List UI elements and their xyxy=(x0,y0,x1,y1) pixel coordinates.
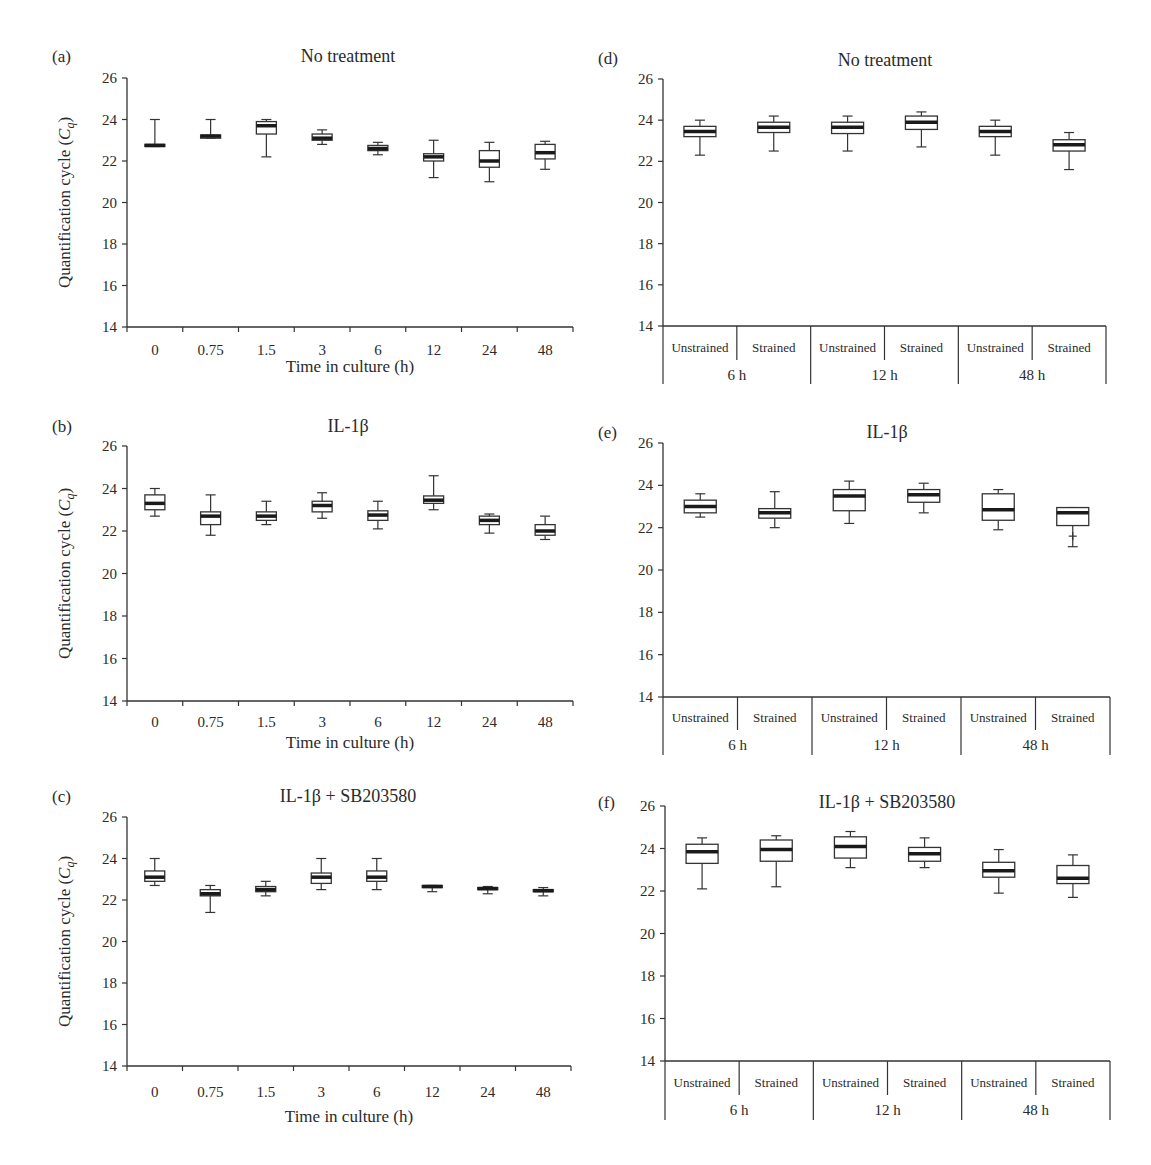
y-tick-label: 22 xyxy=(102,523,117,539)
y-tick-label: 26 xyxy=(638,71,654,87)
y-tick-label: 18 xyxy=(640,968,655,984)
x-tick-label: 0.75 xyxy=(197,1084,223,1100)
y-tick-label: 22 xyxy=(638,520,653,536)
panel-b: (b)IL-1β14161820222426Quantification cyc… xyxy=(52,416,573,752)
box-plot xyxy=(983,850,1015,894)
x-tick-label: 24 xyxy=(480,1084,496,1100)
x-tick-label: 12 xyxy=(426,342,441,358)
x-category-label: Strained xyxy=(752,340,796,355)
x-tick-label: 48 xyxy=(536,1084,551,1100)
panel-label: (b) xyxy=(52,417,72,436)
panel-title: IL-1β xyxy=(866,422,907,442)
y-tick-label: 14 xyxy=(638,318,654,334)
x-category-label: Unstrained xyxy=(967,340,1025,355)
box-plot xyxy=(684,120,716,155)
x-tick-label: 3 xyxy=(318,1084,326,1100)
panel-a: (a)No treatment14161820222426Quantificat… xyxy=(52,46,573,376)
y-tick-label: 16 xyxy=(102,651,118,667)
x-tick-label: 3 xyxy=(318,714,326,730)
y-tick-label: 22 xyxy=(102,892,117,908)
x-category-label: Strained xyxy=(903,1075,947,1090)
x-category-label: Strained xyxy=(902,710,946,725)
y-tick-label: 14 xyxy=(640,1053,656,1069)
y-tick-label: 24 xyxy=(638,477,654,493)
x-tick-label: 0 xyxy=(151,714,159,730)
y-tick-label: 24 xyxy=(638,112,654,128)
box-plot xyxy=(535,141,555,169)
x-group-label: 12 h xyxy=(873,737,900,753)
y-tick-label: 24 xyxy=(102,481,118,497)
box-plot xyxy=(424,476,444,510)
y-axis-label: Quantification cycle (Cq) xyxy=(55,488,77,659)
x-group-label: 12 h xyxy=(871,367,898,383)
box-plot xyxy=(834,832,866,868)
box-plot xyxy=(533,888,553,896)
y-tick-label: 18 xyxy=(102,975,117,991)
box-plot xyxy=(833,481,865,523)
box-plot xyxy=(424,140,444,177)
x-group-label: 12 h xyxy=(874,1102,901,1118)
box-plot xyxy=(479,514,499,533)
panel-e: (e)IL-1β14161820222426UnstrainedStrained… xyxy=(598,422,1110,755)
panel-label: (d) xyxy=(598,49,618,68)
x-category-label: Unstrained xyxy=(674,1075,732,1090)
box-plot xyxy=(422,885,442,891)
box-plot xyxy=(905,112,937,147)
x-category-label: Strained xyxy=(755,1075,799,1090)
box-plot xyxy=(759,492,791,528)
y-tick-label: 14 xyxy=(638,689,654,705)
box-plot xyxy=(145,489,165,517)
x-axis-label: Time in culture (h) xyxy=(286,733,414,752)
x-group-label: 48 h xyxy=(1022,737,1049,753)
panel-d: (d)No treatment14161820222426UnstrainedS… xyxy=(598,49,1106,384)
box-plot xyxy=(256,881,276,896)
y-tick-label: 20 xyxy=(640,926,655,942)
box-plot xyxy=(1057,855,1089,898)
x-category-label: Strained xyxy=(753,710,797,725)
box-plot xyxy=(760,836,792,887)
y-tick-label: 20 xyxy=(102,195,117,211)
y-tick-label: 24 xyxy=(102,112,118,128)
panel-title: IL-1β + SB203580 xyxy=(819,792,955,812)
x-category-label: Unstrained xyxy=(821,710,879,725)
x-group-label: 6 h xyxy=(728,737,747,753)
x-tick-label: 0.75 xyxy=(198,714,224,730)
y-axis-label: Quantification cycle (Cq) xyxy=(55,856,77,1027)
x-tick-label: 48 xyxy=(538,342,553,358)
box-plot xyxy=(201,495,221,535)
x-tick-label: 1.5 xyxy=(256,1084,275,1100)
y-tick-label: 18 xyxy=(638,236,653,252)
y-tick-label: 14 xyxy=(102,693,118,709)
x-category-label: Strained xyxy=(1051,1075,1095,1090)
box-plot xyxy=(311,859,331,890)
x-category-label: Strained xyxy=(1051,710,1095,725)
y-tick-label: 26 xyxy=(640,798,656,814)
box-plot xyxy=(478,887,498,894)
y-tick-label: 18 xyxy=(102,236,117,252)
x-tick-label: 12 xyxy=(426,714,441,730)
y-tick-label: 14 xyxy=(102,319,118,335)
box-plot xyxy=(908,483,940,513)
box-plot xyxy=(367,859,387,890)
y-tick-label: 16 xyxy=(638,647,654,663)
x-axis-label: Time in culture (h) xyxy=(285,1107,413,1126)
y-tick-label: 20 xyxy=(638,195,653,211)
x-category-label: Unstrained xyxy=(822,1075,880,1090)
y-tick-label: 26 xyxy=(102,809,118,825)
box-plot xyxy=(832,116,864,151)
x-category-label: Strained xyxy=(1047,340,1091,355)
x-axis-label: Time in culture (h) xyxy=(286,357,414,376)
y-tick-label: 20 xyxy=(102,566,117,582)
box-plot xyxy=(684,494,716,517)
x-tick-label: 1.5 xyxy=(257,714,276,730)
box-plot xyxy=(909,838,941,868)
panel-c: (c)IL-1β + SB20358014161820222426Quantif… xyxy=(52,786,571,1126)
panel-title: No treatment xyxy=(301,46,395,66)
x-tick-label: 6 xyxy=(374,342,382,358)
y-tick-label: 24 xyxy=(640,841,656,857)
box-plot xyxy=(982,490,1014,530)
x-category-label: Unstrained xyxy=(672,710,730,725)
x-group-label: 6 h xyxy=(730,1102,749,1118)
y-tick-label: 16 xyxy=(102,1017,118,1033)
y-tick-label: 14 xyxy=(102,1058,118,1074)
